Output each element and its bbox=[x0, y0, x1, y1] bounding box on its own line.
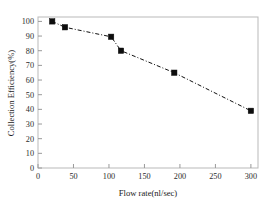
y-tick-label: 10 bbox=[26, 149, 34, 158]
data-point-marker bbox=[108, 34, 113, 39]
y-axis-ticks bbox=[38, 21, 42, 168]
x-tick-label: 0 bbox=[36, 172, 40, 181]
y-axis-title: Collection Efficiency(%) bbox=[6, 50, 16, 137]
chart-figure: 050100150200250300 010203040506070809010… bbox=[0, 0, 274, 203]
y-tick-label: 100 bbox=[22, 17, 34, 26]
x-tick-label: 100 bbox=[103, 172, 115, 181]
chart-plot-area: 050100150200250300 010203040506070809010… bbox=[0, 0, 274, 203]
y-tick-label: 20 bbox=[26, 135, 34, 144]
plot-frame bbox=[38, 17, 258, 168]
x-axis-ticks bbox=[38, 164, 251, 168]
x-tick-label: 200 bbox=[174, 172, 186, 181]
y-tick-label: 30 bbox=[26, 120, 34, 129]
plot-border bbox=[38, 17, 258, 168]
data-series-line bbox=[52, 21, 251, 110]
y-tick-label: 90 bbox=[26, 32, 34, 41]
data-point-marker bbox=[49, 19, 54, 24]
y-axis-tick-labels: 0102030405060708090100 bbox=[22, 17, 34, 173]
y-tick-label: 60 bbox=[26, 76, 34, 85]
x-axis-tick-labels: 050100150200250300 bbox=[36, 172, 257, 181]
x-tick-label: 300 bbox=[245, 172, 257, 181]
x-tick-label: 150 bbox=[138, 172, 150, 181]
y-tick-label: 70 bbox=[26, 61, 34, 70]
data-point-marker bbox=[248, 108, 253, 113]
x-tick-label: 250 bbox=[209, 172, 221, 181]
data-point-marker bbox=[172, 70, 177, 75]
y-tick-label: 50 bbox=[26, 91, 34, 100]
data-series-group bbox=[49, 19, 253, 114]
data-point-marker bbox=[118, 48, 123, 53]
x-tick-label: 50 bbox=[69, 172, 77, 181]
data-point-marker bbox=[62, 25, 67, 30]
y-tick-label: 0 bbox=[30, 164, 34, 173]
y-tick-label: 80 bbox=[26, 47, 34, 56]
y-tick-label: 40 bbox=[26, 105, 34, 114]
x-axis-title: Flow rate(nl/sec) bbox=[119, 188, 178, 198]
